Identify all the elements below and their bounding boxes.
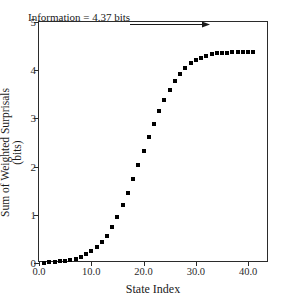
data-point (183, 66, 187, 70)
data-point (79, 255, 83, 259)
y-tick-label: 3 (31, 113, 37, 124)
x-tick-label: 20.0 (134, 267, 152, 278)
data-point (189, 61, 193, 65)
data-point (126, 191, 130, 195)
data-point (210, 52, 214, 56)
y-tick-label: 1 (31, 209, 37, 220)
data-point (220, 51, 224, 55)
data-point (110, 225, 114, 229)
data-point (63, 259, 67, 263)
y-tick-label: 5 (31, 17, 37, 28)
figure-container: 012345 0.010.020.030.040.0 Information =… (0, 0, 286, 303)
data-point (246, 50, 250, 54)
data-point (89, 249, 93, 253)
data-point (147, 135, 151, 139)
x-tick-label: 0.0 (32, 267, 45, 278)
data-point (173, 79, 177, 83)
data-point (178, 72, 182, 76)
data-point (121, 203, 125, 207)
x-tick-label: 10.0 (82, 267, 100, 278)
data-point (136, 163, 140, 167)
data-point (204, 54, 208, 58)
data-point (68, 258, 72, 262)
data-point (131, 177, 135, 181)
data-point (100, 240, 104, 244)
data-point (115, 215, 119, 219)
y-tick-label: 2 (31, 161, 37, 172)
data-point (157, 109, 161, 113)
y-axis-title: Sum of Weighted Surprisals (bits) (0, 78, 23, 228)
data-point (84, 252, 88, 256)
data-point (168, 88, 172, 92)
data-point (162, 98, 166, 102)
data-point (230, 50, 234, 54)
x-tick-label: 40.0 (239, 267, 257, 278)
data-point (142, 149, 146, 153)
data-point (105, 234, 109, 238)
data-point (215, 51, 219, 55)
data-point (194, 58, 198, 62)
data-point (95, 245, 99, 249)
data-point (47, 260, 51, 264)
scatter-series (39, 22, 267, 261)
x-axis-title: State Index (38, 283, 268, 295)
data-point (58, 259, 62, 263)
data-point (74, 257, 78, 261)
data-point (251, 50, 255, 54)
data-point (241, 50, 245, 54)
data-point (42, 261, 46, 265)
data-point (199, 56, 203, 60)
plot-area: 012345 0.010.020.030.040.0 (38, 21, 268, 262)
y-tick-label: 4 (31, 65, 37, 76)
data-point (53, 260, 57, 264)
data-point (225, 51, 229, 55)
data-point (152, 122, 156, 126)
x-tick-label: 30.0 (187, 267, 205, 278)
data-point (236, 50, 240, 54)
